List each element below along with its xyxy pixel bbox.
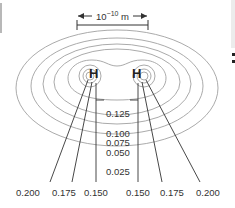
contour-value-label: 0.150: [84, 187, 108, 198]
contour-value-label: 0.175: [160, 187, 184, 198]
contour-value-label: 0.025: [106, 166, 130, 177]
h2-electron-density-diagram: 10−10 m H H 0.125 0.100 0.075 0.050 0.02…: [0, 0, 235, 208]
scale-bar-label: 10−10 m: [96, 10, 129, 22]
contour-value-label: 0.175: [52, 187, 76, 198]
contour-value-label: 0.150: [126, 187, 150, 198]
contour-value-label: 0.200: [16, 187, 40, 198]
contour-value-label: 0.125: [106, 108, 130, 119]
contour-value-label: 0.050: [106, 147, 130, 158]
hydrogen-atom-label: H: [132, 66, 141, 81]
contour-value-label: 0.200: [196, 187, 220, 198]
hydrogen-atom-label: H: [89, 66, 98, 81]
